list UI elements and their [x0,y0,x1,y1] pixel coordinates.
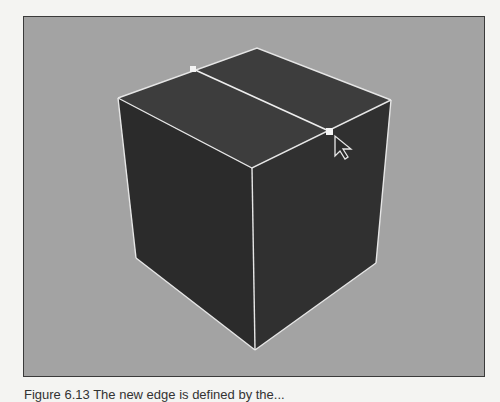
split-start-vertex[interactable] [190,66,196,72]
3d-viewport[interactable] [23,16,485,377]
cube-model[interactable] [23,16,485,377]
selected-vertex[interactable] [326,128,333,135]
figure-caption: Figure 6.13 The new edge is defined by t… [24,387,285,402]
